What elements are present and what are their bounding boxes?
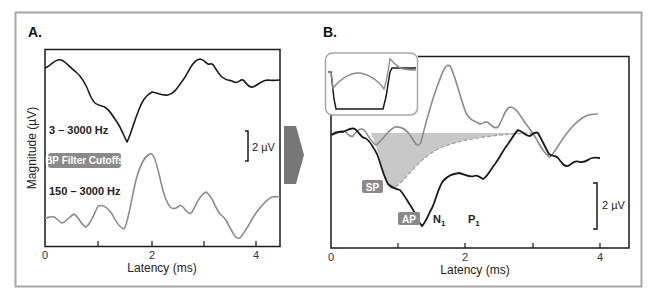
panel-a-ylabel: Magnitude (µV) bbox=[25, 107, 39, 189]
figure: A. Magnitude (µV) 0 2 4 Latency (ms) 3 –… bbox=[0, 0, 651, 300]
panel-b-xlabel: Latency (ms) bbox=[440, 263, 509, 277]
panel-a-xtick-0: 0 bbox=[42, 249, 48, 261]
panel-a-xlabel: Latency (ms) bbox=[127, 261, 196, 275]
panel-b-scale-bar-label: 2 µV bbox=[602, 199, 626, 211]
panel-a-trace-top-label: 3 – 3000 Hz bbox=[49, 124, 109, 136]
panel-b-label: B. bbox=[323, 24, 337, 40]
sp-badge-text: SP bbox=[366, 182, 380, 193]
panel-a-xtick-4: 4 bbox=[253, 249, 259, 261]
panel-b-xtick-0: 0 bbox=[328, 251, 334, 263]
ap-badge-text: AP bbox=[402, 214, 416, 225]
bp-filter-cutoffs-badge-text: BP Filter Cutoffs bbox=[45, 155, 124, 166]
panel-a-label: A. bbox=[28, 24, 42, 40]
panel-b-xtick-4: 4 bbox=[597, 251, 603, 263]
inset-frame bbox=[326, 53, 418, 115]
panel-a-scale-bar-label: 2 µV bbox=[252, 141, 276, 153]
panel-a-trace-bottom-label: 150 – 3000 Hz bbox=[49, 185, 121, 197]
panel-a-xtick-2: 2 bbox=[149, 249, 155, 261]
stimulus-inset bbox=[326, 53, 418, 115]
panel-b-xtick-2: 2 bbox=[462, 251, 468, 263]
